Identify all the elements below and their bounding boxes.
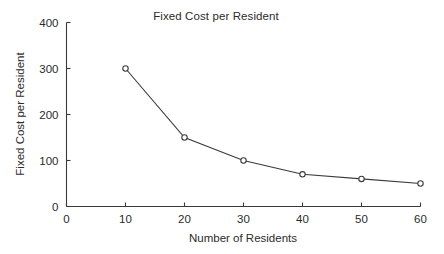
svg-text:50: 50 xyxy=(355,213,368,225)
svg-text:10: 10 xyxy=(119,213,132,225)
svg-text:40: 40 xyxy=(296,213,309,225)
svg-text:200: 200 xyxy=(39,109,58,121)
svg-text:400: 400 xyxy=(39,17,58,29)
y-axis-ticks xyxy=(67,23,71,207)
plot-area: 0100200300400 0102030405060 xyxy=(0,0,444,254)
x-axis-ticks xyxy=(67,203,421,207)
svg-text:20: 20 xyxy=(178,213,191,225)
data-series xyxy=(123,66,423,186)
svg-text:30: 30 xyxy=(237,213,250,225)
chart-figure: Fixed Cost per Resident Fixed Cost per R… xyxy=(0,0,444,254)
svg-text:0: 0 xyxy=(63,213,69,225)
svg-text:100: 100 xyxy=(39,155,58,167)
svg-text:0: 0 xyxy=(52,201,58,213)
x-tick-labels: 0102030405060 xyxy=(63,213,427,225)
y-tick-labels: 0100200300400 xyxy=(39,17,58,213)
svg-text:300: 300 xyxy=(39,63,58,75)
svg-text:60: 60 xyxy=(414,213,427,225)
